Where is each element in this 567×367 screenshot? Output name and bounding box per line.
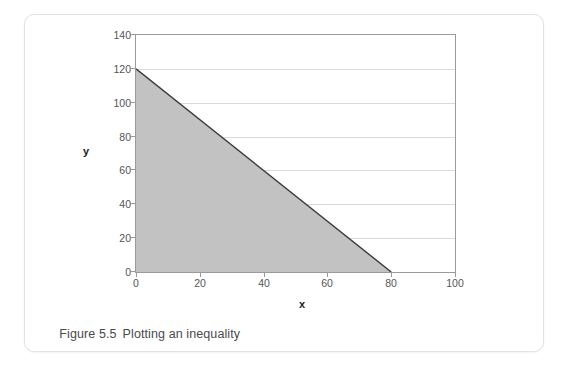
x-axis-title: x [287,298,317,310]
x-tick-label-80: 80 [371,278,411,289]
x-tick-label-0: 0 [116,278,156,289]
figure-caption-text: Plotting an inequality [123,327,241,341]
x-tick-label-40: 40 [244,278,284,289]
y-tick-label-40: 40 [101,199,131,209]
plot-frame [135,34,456,273]
y-tick-label-60: 60 [101,165,131,175]
y-tick-label-120: 120 [101,64,131,74]
x-axis-tick-labels: 020406080100 [135,278,456,294]
y-tick-label-0: 0 [101,267,131,277]
chart-area: 020406080100120140 020406080100 y x [25,15,545,315]
y-tick-label-140: 140 [101,30,131,40]
x-tick-label-20: 20 [180,278,220,289]
y-tick-label-80: 80 [101,132,131,142]
figure-card: 020406080100120140 020406080100 y x Figu… [24,14,544,352]
x-tick-label-100: 100 [435,278,475,289]
y-tick-label-100: 100 [101,98,131,108]
x-axis-tick-marks [135,273,456,277]
x-tick-label-60: 60 [307,278,347,289]
figure-caption: Figure 5.5Plotting an inequality [45,313,240,355]
figure-caption-number: Figure 5.5 [59,327,116,341]
y-axis-tick-labels: 020406080100120140 [97,34,131,273]
y-tick-label-20: 20 [101,233,131,243]
inequality-region-plot [136,35,455,272]
y-axis-title: y [83,145,89,157]
